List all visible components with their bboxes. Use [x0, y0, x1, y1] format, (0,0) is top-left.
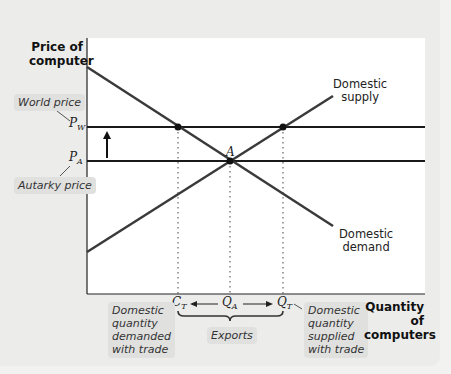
y-axis-label-line1: Price of — [29, 40, 83, 54]
qa-symbol: Q — [222, 295, 232, 309]
x-axis-label-line2: computers — [364, 328, 424, 342]
supply-label-line2: supply — [333, 91, 387, 104]
qt-tick-label: QT — [277, 295, 292, 311]
qd-line4: with trade — [112, 343, 171, 356]
demand-label: Domestic demand — [339, 228, 393, 254]
point-a-label: A — [226, 145, 235, 159]
qa-sub: A — [232, 302, 238, 311]
qd-line3: demanded — [112, 330, 171, 343]
y-axis-label: Price of computer — [29, 40, 83, 68]
x-axis-label: Quantity of computers — [364, 300, 424, 342]
qt-leader — [294, 304, 302, 309]
pa-tick-label: PA — [69, 150, 83, 166]
pw-tick-label: PW — [69, 116, 85, 132]
pa-sub: A — [77, 157, 83, 166]
right-arrow-icon — [266, 301, 273, 307]
qs-line1: Domestic — [308, 304, 364, 317]
qt-symbol: Q — [277, 295, 287, 309]
pa-symbol: P — [69, 150, 77, 164]
qd-line2: quantity — [112, 317, 171, 330]
pw-symbol: P — [69, 116, 77, 130]
demand-label-line2: demand — [339, 241, 393, 254]
quantity-demanded-with-trade-tag: Domestic quantity demanded with trade — [108, 302, 175, 358]
pw-sub: W — [77, 123, 85, 132]
supply-label: Domestic supply — [333, 78, 387, 104]
exports-brace — [178, 311, 283, 321]
ct-sub: T — [181, 302, 186, 311]
ct-point — [175, 124, 182, 131]
x-axis-label-line1: Quantity of — [364, 300, 424, 328]
left-arrow-icon — [190, 301, 197, 307]
supply-curve — [87, 96, 333, 252]
qt-point — [280, 124, 287, 131]
demand-curve — [87, 67, 333, 226]
qs-line3: supplied — [308, 330, 364, 343]
autarky-price-tag: Autarky price — [14, 177, 96, 194]
exports-tag: Exports — [207, 327, 257, 344]
quantity-supplied-with-trade-tag: Domestic quantity supplied with trade — [304, 302, 368, 358]
qt-sub: T — [287, 302, 292, 311]
qs-line4: with trade — [308, 343, 364, 356]
arrow-head-icon — [103, 131, 111, 139]
qd-line1: Domestic — [112, 304, 171, 317]
qa-tick-label: QA — [222, 295, 238, 311]
autarky-price-leader — [60, 166, 70, 176]
y-axis-label-line2: computer — [29, 54, 83, 68]
qs-line2: quantity — [308, 317, 364, 330]
world-price-tag: World price — [14, 94, 85, 111]
